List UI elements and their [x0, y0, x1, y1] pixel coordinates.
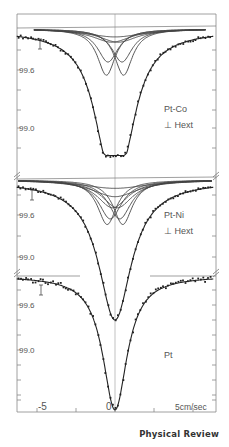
axis-labels: 99.699.0Pt-Co⊥ Hext99.699.0Pt-Ni⊥ Hext99…: [19, 66, 207, 412]
x-tick-label: 5cm/sec: [175, 402, 207, 412]
mossbauer-spectra-chart: 99.699.0Pt-Co⊥ Hext99.699.0Pt-Ni⊥ Hext99…: [0, 0, 229, 447]
x-tick-label: -5: [38, 401, 47, 412]
axis-break-marks: [14, 172, 219, 277]
spectrum-label: ⊥ Hext: [164, 120, 194, 130]
x-tick-label: 0: [106, 401, 112, 412]
y-tick-label: 99.0: [19, 124, 35, 133]
data-points: [18, 35, 212, 409]
y-tick-label: 99.6: [19, 211, 35, 220]
spectrum-label: Pt: [164, 350, 173, 360]
y-tick-label: 99.0: [19, 253, 35, 262]
spectrum-label: Pt-Co: [164, 104, 187, 114]
spectrum-label: ⊥ Hext: [164, 226, 194, 236]
baselines: [17, 26, 216, 276]
y-tick-label: 99.0: [19, 346, 35, 355]
y-tick-label: 99.6: [19, 66, 35, 75]
y-tick-label: 99.6: [19, 301, 35, 310]
journal-credit: Physical Review: [139, 429, 219, 439]
spectrum-label: Pt-Ni: [164, 210, 184, 220]
